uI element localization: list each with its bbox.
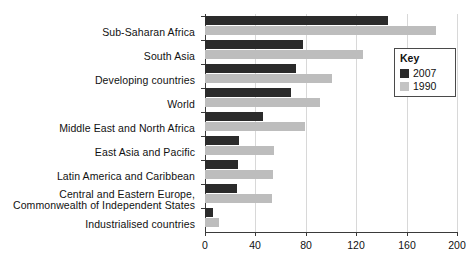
category-label-middle-east-and-north-africa: Middle East and North Africa: [59, 123, 195, 135]
gridline-160: [407, 14, 408, 232]
x-axis-tick-label: 0: [202, 239, 208, 251]
category-label-world: World: [167, 99, 195, 111]
bar-2007-6: [205, 160, 238, 169]
legend-swatch-1990: [400, 82, 409, 91]
legend-item-2007: 2007: [400, 67, 450, 79]
bar-2007-0: [205, 16, 388, 25]
bar-1990-3: [205, 98, 320, 107]
bar-2007-7: [205, 184, 237, 193]
bar-1990-0: [205, 26, 436, 35]
bar-2007-3: [205, 88, 291, 97]
x-axis-tick-0: [205, 232, 206, 236]
x-axis-line: [205, 232, 458, 233]
category-label-latin-america-and-caribbean: Latin America and Caribbean: [57, 171, 195, 183]
bar-2007-1: [205, 40, 303, 49]
bar-2007-2: [205, 64, 296, 73]
legend-label-1990: 1990: [413, 80, 436, 92]
x-axis-tick-label: 120: [347, 239, 365, 251]
gridline-80: [306, 14, 307, 232]
legend-swatch-2007: [400, 69, 409, 78]
x-axis-tick-200: [457, 232, 458, 236]
bar-2007-4: [205, 112, 263, 121]
legend-title: Key: [400, 52, 450, 64]
category-label-sub-saharan-africa: Sub-Saharan Africa: [102, 27, 195, 39]
bar-1990-4: [205, 122, 305, 131]
x-axis-tick-40: [255, 232, 256, 236]
bar-2007-5: [205, 136, 239, 145]
gridline-120: [356, 14, 357, 232]
category-label-developing-countries: Developing countries: [95, 75, 195, 87]
category-label-central-and-eastern-europe-cis-line2: Commonwealth of Independent States: [13, 200, 195, 212]
bar-chart: Sub-Saharan Africa South Asia Developing…: [0, 0, 466, 264]
bar-1990-1: [205, 50, 363, 59]
x-axis-tick-80: [306, 232, 307, 236]
bar-1990-5: [205, 146, 274, 155]
legend: Key 2007 1990: [394, 48, 456, 97]
category-label-east-asia-and-pacific: East Asia and Pacific: [95, 147, 195, 159]
x-axis-tick-label: 80: [300, 239, 312, 251]
x-axis-tick-160: [407, 232, 408, 236]
x-axis-tick-label: 160: [398, 239, 416, 251]
gridline-200: [457, 14, 458, 232]
category-axis-labels: Sub-Saharan Africa South Asia Developing…: [0, 14, 200, 232]
legend-item-1990: 1990: [400, 80, 450, 92]
bar-2007-8: [205, 208, 213, 217]
bar-1990-7: [205, 194, 272, 203]
bar-1990-8: [205, 218, 219, 227]
plot-area: [205, 14, 458, 232]
category-label-south-asia: South Asia: [144, 51, 195, 63]
x-axis-tick-label: 40: [249, 239, 261, 251]
legend-label-2007: 2007: [413, 67, 436, 79]
x-axis-tick-120: [356, 232, 357, 236]
bar-1990-2: [205, 74, 332, 83]
category-label-industrialised-countries: Industrialised countries: [85, 219, 195, 231]
bar-1990-6: [205, 170, 273, 179]
x-axis-tick-label: 200: [448, 239, 466, 251]
